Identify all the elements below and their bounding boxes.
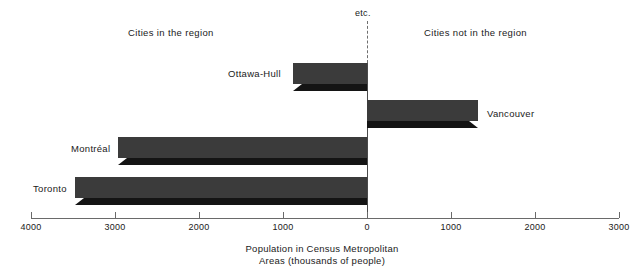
region-caption-right: Cities not in the region [424, 27, 527, 38]
bar-montreal-bevel [118, 158, 127, 165]
axis-tick-3000-right [619, 212, 620, 218]
axis-tick-4000-left [31, 212, 32, 218]
axis-label-1000-left: 1000 [273, 222, 294, 232]
region-caption-left: Cities in the region [128, 27, 214, 38]
population-bar-chart: Cities in the region Cities not in the r… [0, 0, 644, 273]
axis-label-1000-right: 1000 [441, 222, 462, 232]
bar-vancouver-shadow [367, 121, 469, 128]
bar-vancouver-bevel [469, 121, 478, 128]
axis-label-4000-left: 4000 [21, 222, 42, 232]
bar-montreal-shadow [127, 158, 367, 165]
bar-label-montreal: Montréal [71, 143, 110, 154]
axis-tick-2000-left [199, 212, 200, 218]
bar-vancouver [367, 100, 478, 121]
bar-ottawa-hull [293, 63, 367, 84]
axis-label-2000-right: 2000 [525, 222, 546, 232]
bar-toronto-bevel [75, 198, 84, 205]
bar-label-toronto: Toronto [33, 183, 67, 194]
bar-ottawa-hull-shadow [302, 84, 367, 91]
axis-tick-3000-left [115, 212, 116, 218]
bar-label-vancouver: Vancouver [487, 108, 534, 119]
etc-dashed-line [367, 21, 368, 63]
axis-label-2000-left: 2000 [189, 222, 210, 232]
axis-tick-1000-left [283, 212, 284, 218]
axis-tick-1000-right [451, 212, 452, 218]
axis-tick-2000-right [535, 212, 536, 218]
zero-axis-rule [367, 63, 368, 218]
x-axis-title-line1: Population in Census Metropolitan [0, 243, 644, 255]
x-axis-title: Population in Census Metropolitan Areas … [0, 243, 644, 267]
bar-ottawa-hull-bevel [293, 84, 302, 91]
axis-label-3000-left: 3000 [105, 222, 126, 232]
etc-annotation-label: etc. [355, 8, 371, 18]
x-axis-title-line2: Areas (thousands of people) [0, 255, 644, 267]
axis-label-3000-right: 3000 [609, 222, 630, 232]
bar-toronto [75, 177, 367, 198]
bar-toronto-shadow [84, 198, 367, 205]
bar-montreal [118, 137, 367, 158]
axis-tick-0 [367, 212, 368, 218]
axis-label-0: 0 [364, 222, 369, 232]
bar-label-ottawa-hull: Ottawa-Hull [228, 68, 281, 79]
x-axis-line [31, 218, 619, 219]
